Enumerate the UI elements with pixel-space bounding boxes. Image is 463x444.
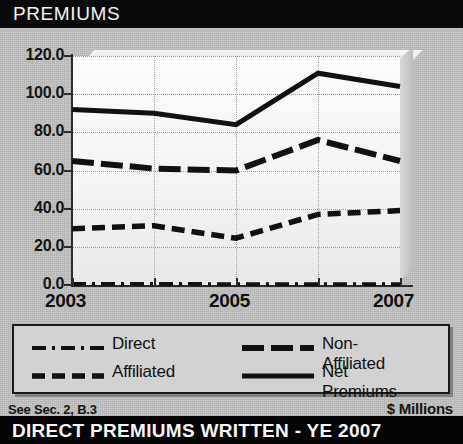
- y-axis-tick: [64, 170, 72, 172]
- x-axis-tick-label: 2003: [45, 290, 86, 312]
- legend-swatch-wrap: [242, 344, 314, 352]
- y-axis-tick: [64, 284, 72, 286]
- section-reference: See Sec. 2, B.3: [8, 402, 97, 417]
- page-title: PREMIUMS: [13, 3, 120, 25]
- x-axis-tick: [318, 278, 320, 286]
- x-axis-tick: [400, 278, 402, 286]
- title-bar: PREMIUMS: [0, 0, 463, 28]
- legend-label: Affiliated: [112, 362, 175, 382]
- y-axis-tick: [64, 93, 72, 95]
- x-axis-tick-label: 2007: [373, 290, 414, 312]
- data-lines: [0, 28, 463, 288]
- chart-page: PREMIUMS 120.0100.080.060.040.020.00.0 2…: [0, 0, 463, 444]
- series-line-net-premiums: [72, 73, 400, 125]
- bottom-banner: DIRECT PREMIUMS WRITTEN - YE 2007: [0, 416, 463, 444]
- units-label: $ Millions: [387, 400, 453, 417]
- series-line-non-affiliated: [72, 140, 400, 171]
- bottom-banner-label: DIRECT PREMIUMS WRITTEN - YE 2007: [12, 420, 382, 442]
- x-axis-tick: [154, 278, 156, 286]
- x-axis-tick-label: 2005: [209, 290, 250, 312]
- legend-label: Direct: [112, 334, 155, 354]
- x-axis-tick: [72, 278, 74, 286]
- legend-swatch-wrap: [32, 344, 104, 352]
- y-axis-tick: [64, 55, 72, 57]
- chart-legend: DirectAffiliatedNon-AffiliatedNet Premiu…: [12, 324, 450, 394]
- series-line-affiliated: [72, 211, 400, 239]
- y-axis-tick: [64, 131, 72, 133]
- plot-area: 120.0100.080.060.040.020.00.0 2003200520…: [0, 28, 463, 288]
- legend-swatch-wrap: [242, 372, 314, 380]
- chart-panel: 120.0100.080.060.040.020.00.0 2003200520…: [0, 28, 463, 416]
- y-axis-tick: [64, 208, 72, 210]
- y-axis-tick: [64, 246, 72, 248]
- legend-label: Net Premiums: [322, 362, 397, 402]
- legend-swatch-wrap: [32, 372, 104, 380]
- x-axis-tick: [236, 278, 238, 286]
